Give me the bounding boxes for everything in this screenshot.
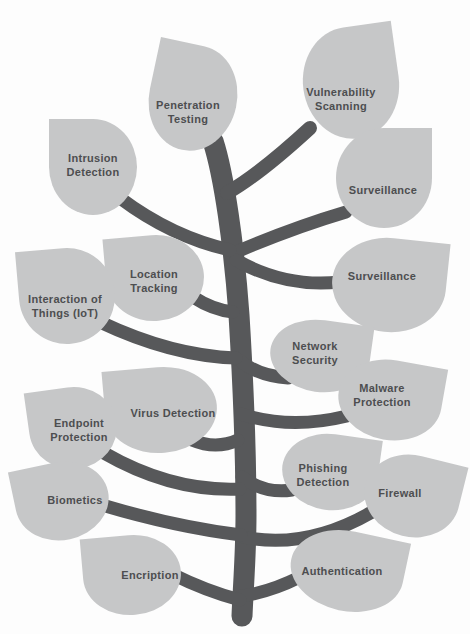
branch-vulnerability-scanning — [227, 128, 310, 193]
leaf-label-authentication: Authentication — [277, 565, 407, 579]
branch-location-tracking — [193, 297, 233, 312]
leaf-tree-diagram: Penetration Testing Vulnerability Scanni… — [0, 0, 470, 634]
leaf-label-encription: Encription — [104, 569, 196, 583]
branch-interaction-of-things — [100, 322, 236, 358]
leaf-label-interaction-of-things: Interaction of Things (IoT) — [17, 293, 113, 320]
branch-malware-protection — [241, 414, 347, 423]
branch-endpoint-protection — [104, 453, 240, 489]
branch-surveillance-upper — [234, 212, 346, 253]
leaf-label-endpoint-protection: Endpoint Protection — [40, 417, 118, 444]
leaf-label-network-security: Network Security — [279, 340, 351, 367]
leaf-label-surveillance-upper: Surveillance — [328, 184, 438, 198]
leaf-label-penetration-testing: Penetration Testing — [148, 99, 228, 126]
leaf-label-malware-protection: Malware Protection — [342, 382, 422, 409]
leaf-shape-surveillance-upper — [336, 128, 432, 228]
branch-surveillance-lower — [236, 260, 340, 283]
trunk-path — [213, 141, 246, 616]
leaf-label-firewall: Firewall — [358, 487, 442, 501]
leaf-label-surveillance-lower: Surveillance — [327, 270, 437, 284]
leaf-label-intrusion-detection: Intrusion Detection — [57, 152, 129, 179]
branch-biometics — [102, 505, 241, 535]
leaf-label-virus-detection: Virus Detection — [113, 407, 233, 421]
leaf-label-location-tracking: Location Tracking — [118, 268, 190, 295]
leaf-label-vulnerability-scanning: Vulnerability Scanning — [299, 86, 383, 113]
leaf-label-phishing-detection: Phishing Detection — [285, 462, 361, 489]
branch-virus-detection — [192, 440, 238, 445]
leaf-label-biometics: Biometics — [29, 494, 121, 508]
